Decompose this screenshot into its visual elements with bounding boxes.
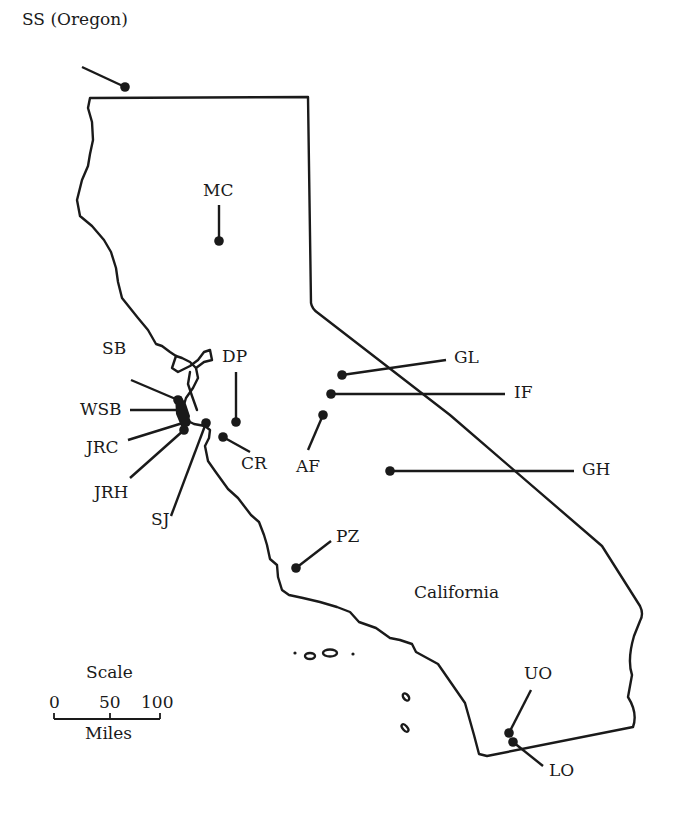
site-marker-sj bbox=[201, 418, 211, 428]
california-site-map: SS (Oregon)MCDPSBWSBJRCJRHSJCRGLIFAFGHPZ… bbox=[0, 0, 681, 823]
california-outline bbox=[77, 97, 642, 756]
scale-tick-50: 50 bbox=[99, 694, 121, 711]
site-marker-jrh bbox=[179, 425, 189, 435]
bay-area-inlet bbox=[172, 350, 212, 372]
site-marker-dp bbox=[231, 417, 241, 427]
sites-layer bbox=[82, 67, 574, 766]
leader-line-ss bbox=[82, 67, 125, 87]
scale-bar bbox=[54, 713, 160, 719]
site-label-dp: DP bbox=[222, 348, 247, 365]
site-marker-ss bbox=[120, 82, 130, 92]
region-label: California bbox=[414, 584, 499, 601]
site-marker-gl bbox=[337, 370, 347, 380]
site-label-jrh: JRH bbox=[94, 484, 128, 501]
site-label-sj: SJ bbox=[151, 511, 169, 528]
scale-title: Scale bbox=[86, 664, 133, 681]
site-label-sb: SB bbox=[102, 340, 126, 357]
site-label-gl: GL bbox=[454, 349, 479, 366]
site-label-lo: LO bbox=[549, 762, 574, 779]
site-marker-if bbox=[326, 389, 336, 399]
scale-tick-0: 0 bbox=[49, 694, 60, 711]
site-marker-af bbox=[318, 410, 328, 420]
leader-line-pz bbox=[296, 541, 331, 568]
site-marker-cr bbox=[218, 432, 228, 442]
site-label-jrc: JRC bbox=[86, 439, 119, 456]
bay-shoreline bbox=[188, 372, 197, 410]
site-marker-mc bbox=[214, 236, 224, 246]
site-label-if: IF bbox=[514, 384, 533, 401]
site-label-cr: CR bbox=[241, 455, 267, 472]
leader-line-sb bbox=[131, 380, 178, 400]
site-label-pz: PZ bbox=[336, 528, 359, 545]
site-label-gh: GH bbox=[582, 461, 610, 478]
site-marker-lo bbox=[508, 737, 518, 747]
site-label-wsb: WSB bbox=[80, 401, 122, 418]
site-marker-uo bbox=[504, 728, 514, 738]
site-label-af: AF bbox=[296, 458, 320, 475]
island-dot bbox=[351, 652, 354, 655]
island bbox=[323, 650, 337, 657]
site-label-mc: MC bbox=[203, 182, 233, 199]
island bbox=[402, 692, 411, 701]
scale-unit: Miles bbox=[85, 725, 132, 742]
island bbox=[305, 653, 315, 659]
bay-cluster-marker bbox=[175, 396, 190, 426]
site-label-ss: SS (Oregon) bbox=[22, 11, 128, 28]
site-marker-gh bbox=[385, 466, 395, 476]
leader-line-uo bbox=[509, 690, 531, 733]
leader-line-af bbox=[308, 415, 323, 450]
site-label-uo: UO bbox=[524, 665, 552, 682]
island bbox=[400, 723, 409, 733]
site-marker-pz bbox=[291, 563, 301, 573]
scale-tick-100: 100 bbox=[141, 694, 173, 711]
island-dot bbox=[293, 651, 296, 654]
